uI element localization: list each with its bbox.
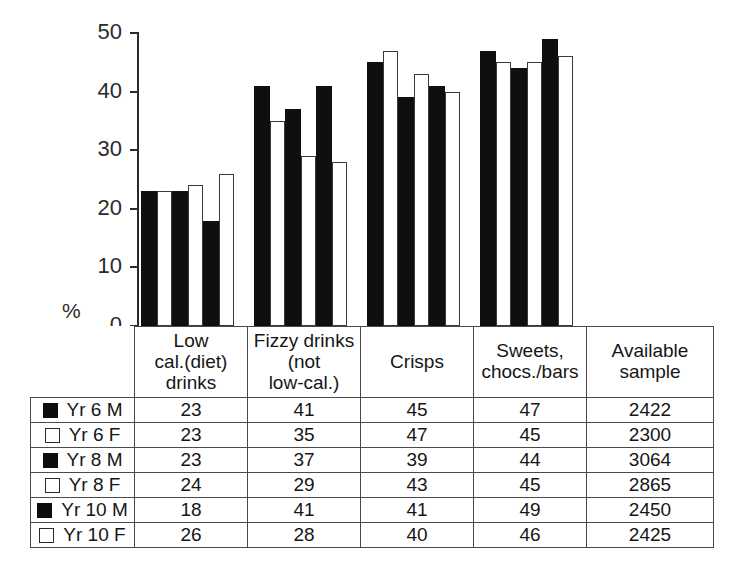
hollow-square-icon	[45, 428, 60, 443]
legend-cell: Yr 10 F	[31, 523, 135, 548]
table-cell-value: 45	[361, 398, 474, 423]
table-cell-available-sample: 2422	[587, 398, 714, 423]
table-cell-value: 18	[135, 498, 248, 523]
bar-yr-8-f-2	[301, 156, 317, 326]
table-cell-value: 43	[361, 473, 474, 498]
table-header-cell-5: Availablesample	[587, 327, 714, 398]
legend-cell: Yr 8 F	[31, 473, 135, 498]
bar-yr-10-m-4	[542, 39, 558, 326]
table-cell-value: 41	[248, 498, 361, 523]
bar-yr-10-m-3	[429, 86, 445, 326]
legend-series-label: Yr 8 M	[67, 448, 123, 472]
legend-cell: Yr 8 M	[31, 448, 135, 473]
bar-yr-6-f-4	[496, 62, 512, 326]
table-header-cell-4: Sweets,chocs./bars	[474, 327, 587, 398]
table-cell-value: 47	[361, 423, 474, 448]
filled-square-icon	[37, 503, 52, 518]
table-row: Yr 10 F262840462425	[31, 523, 714, 548]
table-cell-value: 45	[474, 423, 587, 448]
bar-yr-8-f-4	[527, 62, 543, 326]
legend-cell: Yr 6 F	[31, 423, 135, 448]
table-cell-value: 28	[248, 523, 361, 548]
bar-yr-6-m-4	[480, 51, 496, 326]
table-header-cell-3: Crisps	[361, 327, 474, 398]
bar-yr-6-f-2	[270, 121, 286, 326]
table-row: Yr 6 M234145472422	[31, 398, 714, 423]
bar-yr-6-m-2	[254, 86, 270, 326]
table-row: Yr 10 M184141492450	[31, 498, 714, 523]
bar-yr-10-f-3	[445, 92, 461, 326]
bar-yr-10-f-1	[219, 174, 235, 326]
table-cell-available-sample: 2450	[587, 498, 714, 523]
table-header: Lowcal.(diet)drinksFizzy drinks(notlow-c…	[31, 327, 714, 398]
filled-square-icon	[43, 453, 58, 468]
bar-yr-6-m-1	[141, 191, 157, 326]
table-cell-value: 49	[474, 498, 587, 523]
table-row: Yr 8 F242943452865	[31, 473, 714, 498]
legend-series-label: Yr 10 F	[63, 523, 125, 547]
table-header-cell-2: Fizzy drinks(notlow-cal.)	[248, 327, 361, 398]
legend-series-label: Yr 6 M	[67, 398, 123, 422]
plot-area: 50403020100 %	[0, 0, 739, 332]
table-cell-value: 24	[135, 473, 248, 498]
table-cell-value: 44	[474, 448, 587, 473]
table-cell-available-sample: 2300	[587, 423, 714, 448]
bar-chart-figure: 50403020100 % Lowcal.(diet)drinksFizzy d…	[0, 0, 739, 561]
legend-cell: Yr 10 M	[31, 498, 135, 523]
bar-yr-10-m-2	[316, 86, 332, 326]
table-cell-value: 46	[474, 523, 587, 548]
table-cell-value: 23	[135, 398, 248, 423]
bar-yr-10-m-1	[203, 221, 219, 326]
filled-square-icon	[43, 403, 58, 418]
table-header-line: Low	[137, 330, 245, 351]
legend-cell: Yr 6 M	[31, 398, 135, 423]
bar-yr-8-m-4	[511, 68, 527, 326]
bar-yr-10-f-2	[332, 162, 348, 326]
table-cell-value: 29	[248, 473, 361, 498]
bar-yr-6-m-3	[367, 62, 383, 326]
table-cell-value: 23	[135, 423, 248, 448]
table-header-cell-1: Lowcal.(diet)drinks	[135, 327, 248, 398]
legend-series-label: Yr 6 F	[69, 423, 121, 447]
bar-yr-8-m-3	[398, 97, 414, 326]
table-header-line: Fizzy drinks	[250, 330, 358, 351]
table-header-line: Available	[589, 340, 711, 361]
bar-yr-8-m-2	[285, 109, 301, 326]
table-header-line: drinks	[137, 372, 245, 393]
table-header-line: sample	[589, 361, 711, 382]
table-cell-value: 37	[248, 448, 361, 473]
table-cell-available-sample: 2865	[587, 473, 714, 498]
table-header-corner	[31, 327, 135, 398]
table-header-line: low-cal.)	[250, 372, 358, 393]
bar-yr-8-m-1	[172, 191, 188, 326]
table-header-line: Sweets,	[476, 340, 584, 361]
table-header-line: cal.(diet)	[137, 351, 245, 372]
table-cell-value: 41	[361, 498, 474, 523]
table-cell-value: 45	[474, 473, 587, 498]
legend-series-label: Yr 10 M	[61, 498, 128, 522]
bar-yr-10-f-4	[558, 56, 574, 326]
bar-yr-8-f-3	[414, 74, 430, 326]
hollow-square-icon	[45, 478, 60, 493]
legend-series-label: Yr 8 F	[69, 473, 121, 497]
hollow-square-icon	[39, 528, 54, 543]
table-body: Yr 6 M234145472422Yr 6 F233547452300Yr 8…	[31, 398, 714, 548]
data-table: Lowcal.(diet)drinksFizzy drinks(notlow-c…	[30, 326, 714, 548]
table-row: Yr 8 M233739443064	[31, 448, 714, 473]
bars-layer	[0, 0, 739, 332]
table-cell-value: 40	[361, 523, 474, 548]
table-header-line: Crisps	[363, 351, 471, 372]
table-cell-available-sample: 3064	[587, 448, 714, 473]
table-header-row: Lowcal.(diet)drinksFizzy drinks(notlow-c…	[31, 327, 714, 398]
table-header-line: chocs./bars	[476, 361, 584, 382]
bar-yr-8-f-1	[188, 185, 204, 326]
bar-yr-6-f-3	[383, 51, 399, 326]
table-cell-value: 35	[248, 423, 361, 448]
table-cell-value: 23	[135, 448, 248, 473]
table-header-line: (not	[250, 351, 358, 372]
table-cell-value: 39	[361, 448, 474, 473]
table-row: Yr 6 F233547452300	[31, 423, 714, 448]
table-cell-available-sample: 2425	[587, 523, 714, 548]
bar-yr-6-f-1	[157, 191, 173, 326]
table-cell-value: 47	[474, 398, 587, 423]
